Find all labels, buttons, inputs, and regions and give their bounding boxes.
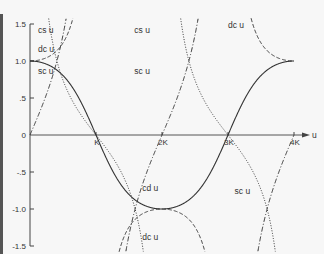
y-tick-label: 0 [22,131,27,140]
curve-label: dc u [38,44,54,54]
y-tick-label: .5 [19,94,26,103]
y-tick-label: -.5 [17,168,27,177]
y-tick-label: -1.5 [12,242,26,251]
y-tick-label: 1.5 [15,20,27,29]
curve-label: dc u [228,20,244,30]
y-tick-label: 1.0 [15,57,27,66]
curve-label: sc u [134,66,150,76]
curve-label: cs u [134,25,150,35]
curve-label: cd u [142,183,158,193]
x-axis-label: u [312,130,317,140]
x-axis-arrow-icon [302,133,310,138]
curve-label: sc u [235,186,251,196]
curve-label: cs u [38,25,54,35]
curve-label: dc u [142,232,158,242]
curve-label: sc u [38,66,54,76]
elliptic-function-chart: u 1.51.0.50-.5-1.0-1.5 K2K3K4K cs udc us… [0,0,324,254]
x-ticks: K2K3K4K [94,132,300,147]
y-tick-label: -1.0 [12,205,26,214]
annotations: cs udc usc ucs usc udc ucd udc usc u [38,20,251,242]
